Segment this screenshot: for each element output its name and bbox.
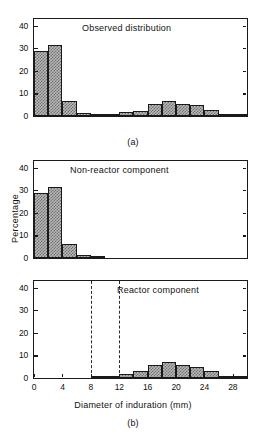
y-tick-mark <box>34 26 38 27</box>
x-tick-label: 12 <box>111 383 127 392</box>
y-tick-mark <box>34 378 38 379</box>
histogram-bar <box>105 376 119 378</box>
histogram-bar <box>133 371 147 378</box>
histogram-bar <box>219 114 233 116</box>
threshold-line <box>119 281 120 378</box>
x-axis-label: Diameter of induration (mm) <box>0 401 266 410</box>
y-tick-mark <box>34 235 38 236</box>
histogram-bar <box>48 45 62 116</box>
panel-b-label: (b) <box>0 419 266 428</box>
histogram-bar <box>77 113 91 116</box>
histogram-bar <box>62 244 76 258</box>
histogram-bar <box>148 104 162 116</box>
histogram-bar <box>190 367 204 378</box>
panel-observed-distribution: Observed distribution 010203040 (a) <box>0 0 266 150</box>
panel-a-label: (a) <box>0 138 266 147</box>
x-tick-label: 8 <box>83 383 99 392</box>
histogram-bar <box>48 187 62 258</box>
histogram-bar <box>119 374 133 378</box>
bars-observed <box>34 19 247 116</box>
y-tick-label: 40 <box>8 164 28 173</box>
x-tick-label: 0 <box>26 383 42 392</box>
histogram-bar <box>219 376 233 378</box>
y-tick-mark <box>34 48 38 49</box>
y-tick-mark-right <box>243 26 247 27</box>
histogram-bar <box>162 101 176 116</box>
histogram-bar <box>34 193 48 258</box>
x-tick-mark <box>233 374 234 378</box>
histogram-bar <box>204 110 218 116</box>
panel-reactor-component: Reactor component 010203040 048121620242… <box>0 259 266 440</box>
histogram-bar <box>105 114 119 116</box>
histogram-bar <box>77 255 91 258</box>
histogram-bar <box>204 371 218 378</box>
y-tick-mark-right <box>243 190 247 191</box>
histogram-bar <box>119 112 133 116</box>
y-tick-label: 20 <box>8 67 28 76</box>
y-tick-label: 40 <box>8 284 28 293</box>
x-tick-label: 28 <box>225 383 241 392</box>
y-tick-mark-right <box>243 213 247 214</box>
y-tick-label: 40 <box>8 22 28 31</box>
y-tick-mark-right <box>243 93 247 94</box>
y-tick-mark-right <box>243 235 247 236</box>
y-axis-label: Percentage <box>11 194 20 243</box>
y-tick-mark-right <box>243 333 247 334</box>
y-tick-mark-right <box>243 355 247 356</box>
y-tick-mark-right <box>243 116 247 117</box>
x-tick-mark <box>62 374 63 378</box>
y-tick-mark <box>34 355 38 356</box>
histogram-bar <box>62 101 76 116</box>
y-tick-mark-right <box>243 310 247 311</box>
x-tick-mark <box>119 374 120 378</box>
y-tick-mark-right <box>243 378 247 379</box>
y-tick-label: 30 <box>8 44 28 53</box>
y-tick-label: 0 <box>8 112 28 121</box>
y-tick-mark-right <box>243 71 247 72</box>
threshold-line <box>91 281 92 378</box>
histogram-bar <box>176 104 190 116</box>
x-tick-mark <box>204 374 205 378</box>
histogram-bar <box>148 365 162 378</box>
y-tick-mark <box>34 71 38 72</box>
bars-non-reactor <box>34 161 247 258</box>
histogram-bar <box>91 256 105 258</box>
x-tick-mark <box>148 374 149 378</box>
y-tick-mark-right <box>243 288 247 289</box>
y-tick-mark-right <box>243 168 247 169</box>
y-tick-label: 10 <box>8 89 28 98</box>
panel-a-title: Observed distribution <box>82 24 171 33</box>
y-tick-mark <box>34 310 38 311</box>
x-tick-label: 16 <box>140 383 156 392</box>
bars-reactor <box>34 281 247 378</box>
y-tick-mark <box>34 190 38 191</box>
y-tick-mark <box>34 116 38 117</box>
histogram-bar <box>91 376 105 378</box>
panel-b-top-title: Non-reactor component <box>70 166 169 175</box>
x-tick-mark <box>176 374 177 378</box>
x-tick-mark <box>91 374 92 378</box>
x-tick-label: 20 <box>168 383 184 392</box>
y-tick-mark <box>34 288 38 289</box>
y-tick-mark <box>34 168 38 169</box>
x-tick-label: 4 <box>54 383 70 392</box>
figure-root: Observed distribution 010203040 (a) Non-… <box>0 0 266 440</box>
y-tick-mark-right <box>243 48 247 49</box>
x-tick-mark <box>34 374 35 378</box>
histogram-bar <box>176 365 190 378</box>
panel-b-bottom-title: Reactor component <box>117 286 199 295</box>
histogram-bar <box>91 114 105 116</box>
y-tick-label: 20 <box>8 329 28 338</box>
y-tick-label: 10 <box>8 351 28 360</box>
histogram-bar <box>34 51 48 116</box>
y-tick-mark <box>34 93 38 94</box>
histogram-bar <box>133 111 147 116</box>
y-tick-label: 30 <box>8 306 28 315</box>
y-tick-mark <box>34 213 38 214</box>
x-tick-label: 24 <box>196 383 212 392</box>
y-tick-label: 0 <box>8 374 28 383</box>
histogram-bar <box>162 362 176 378</box>
y-tick-mark <box>34 333 38 334</box>
histogram-bar <box>190 105 204 116</box>
